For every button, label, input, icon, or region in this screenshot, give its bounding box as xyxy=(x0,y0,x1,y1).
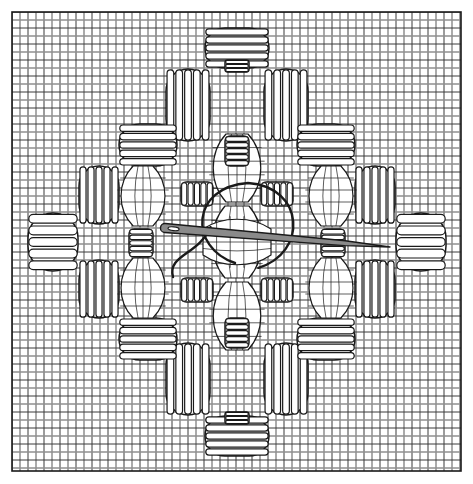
diagram-stage: Pulled-Thread Embroidery Stitch Diagram … xyxy=(0,0,473,484)
wrapped-coil-ring xyxy=(226,319,249,324)
wrapped-coil-ring xyxy=(130,235,153,239)
satin-rib xyxy=(206,433,268,439)
wrapped-coil-ring xyxy=(226,143,249,148)
satin-rib xyxy=(206,425,268,431)
satin-rib xyxy=(265,70,272,140)
satin-rib xyxy=(388,167,394,223)
wrapped-coil-ring xyxy=(226,420,249,423)
satin-rib xyxy=(372,261,378,317)
wrapped-coil-ring xyxy=(194,183,199,206)
wrapped-coil-ring xyxy=(287,279,292,302)
satin-rib xyxy=(356,167,362,223)
satin-rib xyxy=(120,150,176,156)
wrapped-coil-ring xyxy=(226,137,249,142)
satin-rib xyxy=(120,133,176,139)
satin-rib xyxy=(206,29,268,35)
satin-rib xyxy=(274,70,281,140)
satin-rib xyxy=(29,214,77,223)
wrapped-coil-ring xyxy=(226,155,249,160)
wrapped-bar-coil xyxy=(181,278,213,302)
satin-rib xyxy=(29,238,77,247)
satin-rib xyxy=(298,353,354,359)
satin-rib xyxy=(388,261,394,317)
satin-rib xyxy=(206,37,268,43)
wrapped-coil-ring xyxy=(268,183,273,206)
satin-rib xyxy=(176,344,183,414)
satin-rib xyxy=(298,142,354,148)
satin-rib xyxy=(397,238,445,247)
satin-rib xyxy=(120,336,176,342)
wrapped-coil-ring xyxy=(130,230,153,234)
satin-stitch-block xyxy=(297,318,355,360)
satin-rib xyxy=(202,344,209,414)
wrapped-coil-ring xyxy=(226,337,249,342)
wrapped-coil-ring xyxy=(322,230,345,234)
satin-stitch-block xyxy=(119,124,177,166)
satin-rib xyxy=(88,167,94,223)
satin-rib xyxy=(380,167,386,223)
satin-rib xyxy=(298,327,354,333)
wrapped-coil-ring xyxy=(226,161,249,166)
satin-rib xyxy=(88,261,94,317)
wrapped-coil-ring xyxy=(322,252,345,256)
satin-rib xyxy=(112,167,118,223)
wrapped-coil-ring xyxy=(207,279,212,302)
satin-stitch-block xyxy=(79,260,119,318)
wrapped-coil-ring xyxy=(226,416,249,419)
satin-rib xyxy=(298,125,354,131)
wrapped-coil-ring xyxy=(201,279,206,302)
satin-rib xyxy=(120,327,176,333)
wrapped-coil-ring xyxy=(130,241,153,245)
satin-rib xyxy=(298,150,354,156)
satin-rib xyxy=(265,344,272,414)
satin-rib xyxy=(298,133,354,139)
satin-rib xyxy=(397,214,445,223)
satin-rib xyxy=(96,167,102,223)
satin-rib xyxy=(120,353,176,359)
wrapped-coil-ring xyxy=(322,246,345,250)
satin-rib xyxy=(29,249,77,258)
satin-rib xyxy=(298,319,354,325)
wrapped-coil-ring xyxy=(268,279,273,302)
satin-rib xyxy=(202,70,209,140)
satin-rib xyxy=(372,167,378,223)
satin-stitch-block xyxy=(119,318,177,360)
satin-rib xyxy=(80,261,86,317)
satin-rib xyxy=(112,261,118,317)
satin-rib xyxy=(193,70,200,140)
wrapped-coil-ring xyxy=(226,68,249,71)
satin-rib xyxy=(291,70,298,140)
satin-rib xyxy=(120,159,176,165)
wrapped-coil-ring xyxy=(201,183,206,206)
satin-rib xyxy=(364,167,370,223)
satin-rib xyxy=(120,319,176,325)
satin-rib xyxy=(364,261,370,317)
satin-stitch-block xyxy=(355,166,395,224)
satin-rib xyxy=(29,226,77,235)
wrapped-coil-ring xyxy=(182,183,187,206)
satin-rib xyxy=(29,261,77,270)
wrapped-coil-ring xyxy=(182,279,187,302)
satin-rib xyxy=(206,441,268,447)
wrapped-coil-ring xyxy=(226,60,249,63)
wrapped-coil-ring xyxy=(226,343,249,348)
wrapped-coil-ring xyxy=(226,149,249,154)
satin-rib xyxy=(206,449,268,455)
wrapped-coil-ring xyxy=(226,412,249,415)
wrapped-coil-ring xyxy=(130,246,153,250)
satin-rib xyxy=(283,344,290,414)
pulled-woven-bar xyxy=(203,216,271,267)
satin-rib xyxy=(291,344,298,414)
embroidery-diagram-svg xyxy=(0,0,473,484)
satin-rib xyxy=(193,344,200,414)
satin-rib xyxy=(298,159,354,165)
satin-rib xyxy=(206,45,268,51)
satin-rib xyxy=(274,344,281,414)
wrapped-coil-ring xyxy=(194,279,199,302)
wrapped-coil-ring xyxy=(281,279,286,302)
satin-rib xyxy=(397,261,445,270)
satin-rib xyxy=(104,167,110,223)
wrapped-coil-ring xyxy=(274,279,279,302)
satin-stitch-block xyxy=(297,124,355,166)
satin-stitch-block xyxy=(355,260,395,318)
